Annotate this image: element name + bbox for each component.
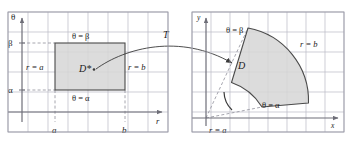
right-axis-label-x: x (330, 121, 335, 130)
right-panel: y x θ = β r = b θ = α r = a D (192, 12, 344, 135)
right-region-label: D (237, 60, 246, 71)
right-edge-label-theta-alpha: θ = α (262, 100, 280, 110)
left-axis-label-theta: θ (11, 12, 15, 22)
left-tick-beta: β (8, 38, 13, 48)
left-region-label: D* (78, 63, 91, 74)
left-tick-a: a (52, 125, 57, 135)
right-edge-label-theta-beta: θ = β (226, 25, 243, 35)
left-edge-label-r-a: r = a (26, 62, 44, 72)
transform-label: T (163, 29, 170, 40)
right-edge-label-r-a: r = a (209, 125, 227, 135)
left-edge-label-r-b: r = b (128, 62, 146, 72)
right-edge-label-r-b: r = b (300, 39, 318, 49)
left-tick-b: b (122, 125, 127, 135)
left-axis-label-r: r (156, 116, 160, 126)
left-edge-label-theta-alpha: θ = α (72, 93, 90, 103)
figure-container: θ r β α a b θ = β θ = α r = a r = b D* T (0, 0, 352, 144)
right-axis-label-y: y (196, 13, 201, 22)
left-tick-alpha: α (8, 85, 13, 95)
right-angle-arc (224, 92, 232, 110)
left-region-point (93, 68, 96, 71)
diagram-svg: θ r β α a b θ = β θ = α r = a r = b D* T (0, 0, 352, 144)
left-edge-label-theta-beta: θ = β (72, 31, 89, 41)
left-panel: θ r β α a b θ = β θ = α r = a r = b D* (8, 12, 168, 135)
